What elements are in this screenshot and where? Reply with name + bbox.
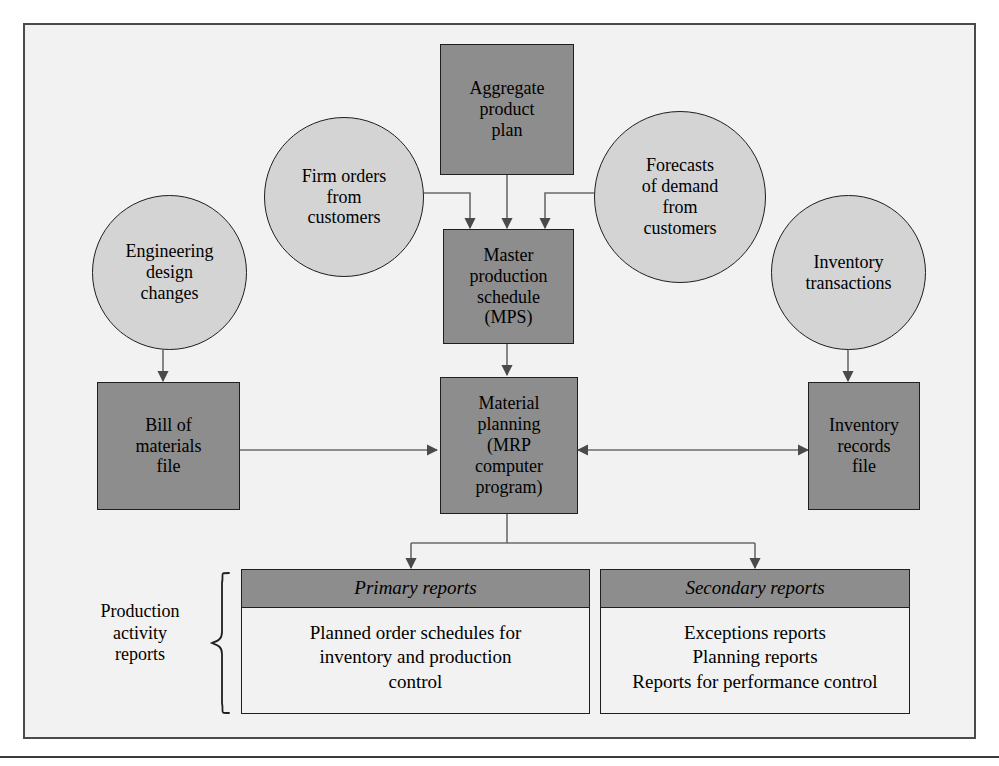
node-firm-orders: Firm orders from customers bbox=[264, 117, 424, 277]
secondary-reports-body: Exceptions reports Planning reports Repo… bbox=[601, 608, 909, 713]
mrp-flow-diagram: Aggregate product plan Firm orders from … bbox=[0, 0, 999, 766]
node-material-planning: Material planning (MRP computer program) bbox=[440, 377, 578, 514]
node-bill-of-materials-file: Bill of materials file bbox=[97, 382, 240, 510]
node-aggregate-product-plan-label: Aggregate product plan bbox=[470, 78, 545, 141]
node-firm-orders-label: Firm orders from customers bbox=[302, 166, 387, 229]
primary-reports-body: Planned order schedules for inventory an… bbox=[242, 608, 589, 713]
node-master-production-schedule: Master production schedule (MPS) bbox=[443, 229, 574, 344]
secondary-reports-header: Secondary reports bbox=[601, 570, 909, 608]
node-engineering-design-changes-label: Engineering design changes bbox=[126, 241, 214, 304]
node-master-production-schedule-label: Master production schedule (MPS) bbox=[470, 245, 548, 329]
figure-bottom-rule bbox=[0, 756, 999, 758]
node-bill-of-materials-file-label: Bill of materials file bbox=[136, 415, 202, 478]
node-inventory-transactions-label: Inventory transactions bbox=[806, 252, 892, 294]
node-inventory-records-file-label: Inventory records file bbox=[829, 415, 899, 478]
primary-reports-panel: Primary reports Planned order schedules … bbox=[241, 569, 590, 714]
node-inventory-transactions: Inventory transactions bbox=[771, 195, 926, 350]
production-activity-reports-text: Production activity reports bbox=[101, 601, 180, 664]
node-engineering-design-changes: Engineering design changes bbox=[92, 195, 247, 350]
node-forecasts-of-demand: Forecasts of demand from customers bbox=[594, 111, 766, 283]
node-forecasts-of-demand-label: Forecasts of demand from customers bbox=[642, 155, 718, 239]
primary-reports-header: Primary reports bbox=[242, 570, 589, 608]
secondary-reports-panel: Secondary reports Exceptions reports Pla… bbox=[600, 569, 910, 714]
node-material-planning-label: Material planning (MRP computer program) bbox=[475, 393, 543, 497]
node-aggregate-product-plan: Aggregate product plan bbox=[440, 44, 574, 175]
production-activity-reports-label: Production activity reports bbox=[64, 601, 216, 666]
node-inventory-records-file: Inventory records file bbox=[808, 382, 920, 510]
